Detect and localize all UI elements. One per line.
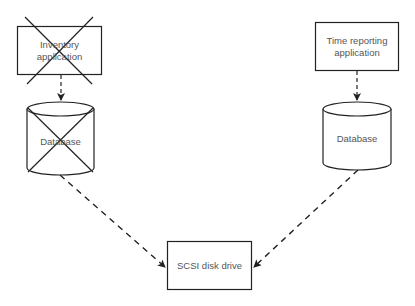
edge-time-db-to-scsi xyxy=(254,170,358,267)
scsi-disk-label: SCSI disk drive xyxy=(167,241,252,290)
inventory-app-label: Inventory application xyxy=(17,26,102,75)
time-reporting-app-label: Time reporting application xyxy=(315,22,399,71)
inventory-app-label-line1: Inventory xyxy=(37,39,82,51)
time-reporting-app-label-line2: application xyxy=(327,47,388,59)
time-db-label: Database xyxy=(323,114,391,164)
time-reporting-app-label-line1: Time reporting xyxy=(327,35,388,47)
edge-inventory-db-to-scsi xyxy=(60,175,165,267)
inventory-db-label: Database xyxy=(27,116,94,168)
inventory-app-label-line2: application xyxy=(37,51,82,63)
